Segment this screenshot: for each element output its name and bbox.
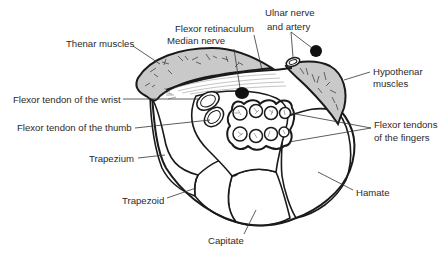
ulnar-artery-dot [310, 45, 322, 57]
label-flexor-tendon-wrist: Flexor tendon of the wrist [13, 94, 121, 105]
leader-hypothenar [344, 72, 370, 80]
trapezium-bone [150, 96, 198, 196]
label-trapezium: Trapezium [89, 153, 134, 164]
label-hypothenar-line1: Hypothenar [373, 66, 423, 77]
label-capitate: Capitate [208, 235, 244, 246]
label-flexor-tendons-fingers-line2: of the fingers [374, 132, 430, 143]
label-thenar-muscles: Thenar muscles [66, 38, 134, 49]
leader-thenar [133, 46, 160, 64]
capitate-bone [229, 169, 290, 225]
label-trapezoid: Trapezoid [122, 195, 164, 206]
leader-ulnar-nerve [291, 32, 293, 57]
label-flexor-tendon-thumb: Flexor tendon of the thumb [17, 122, 132, 133]
label-hypothenar-line2: muscles [373, 78, 408, 89]
label-median-nerve: Median nerve [167, 35, 225, 46]
leader-ulnar-artery [291, 32, 312, 48]
label-ulnar-nerve-line2: and artery [267, 21, 310, 32]
label-ulnar-nerve-line1: Ulnar nerve [265, 7, 315, 18]
median-nerve-dot [235, 87, 249, 99]
label-hamate: Hamate [356, 187, 390, 198]
wrist-cross-section-diagram: Thenar muscles Flexor retinaculum Median… [0, 0, 446, 254]
label-flexor-tendons-fingers-line1: Flexor tendons [374, 119, 438, 130]
label-flexor-retinaculum: Flexor retinaculum [175, 23, 254, 34]
